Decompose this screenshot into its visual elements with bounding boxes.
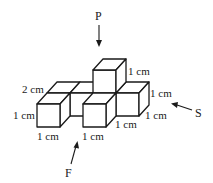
label-top-cube-height: 1 cm [128, 65, 150, 77]
arrow-s: S [171, 102, 202, 120]
cube-solid-diagram: 1 cm 2 cm 1 cm 1 cm 1 cm 1 cm 1 cm 1 cm … [0, 0, 213, 183]
view-label-f: F [65, 166, 72, 180]
arrow-p: P [95, 9, 102, 47]
label-front-middle-width: 1 cm [82, 130, 104, 142]
label-right-front-width: 1 cm [115, 118, 137, 130]
arrow-up-icon [71, 146, 76, 164]
label-right-height: 1 cm [150, 87, 172, 99]
arrow-left-icon [177, 105, 192, 110]
label-right-depth: 1 cm [145, 109, 167, 121]
view-label-p: P [95, 9, 102, 23]
label-back-depth: 2 cm [22, 83, 44, 95]
label-left-height: 1 cm [13, 109, 35, 121]
top-cube-front [93, 70, 116, 93]
view-label-s: S [195, 106, 202, 120]
arrowhead-f-icon [74, 141, 80, 149]
top-cube [93, 59, 126, 93]
right-cube-front [116, 93, 139, 116]
arrow-f: F [65, 141, 79, 180]
arrowhead-s-icon [171, 102, 178, 108]
label-left-width: 1 cm [37, 130, 59, 142]
left-cube-front [37, 104, 60, 127]
arrowhead-p-icon [96, 40, 102, 47]
middle-cube-front [83, 104, 106, 127]
